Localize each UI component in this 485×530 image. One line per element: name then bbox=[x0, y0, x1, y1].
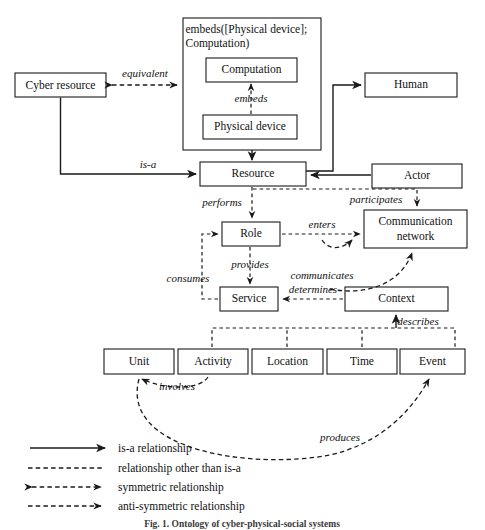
node-resource-label: Resource bbox=[232, 167, 275, 179]
node-service[interactable]: Service bbox=[220, 287, 278, 311]
edge-produces-label: produces bbox=[319, 431, 360, 443]
node-computation[interactable]: Computation bbox=[206, 58, 297, 82]
embeds-group-title-line2: Computation) bbox=[186, 37, 250, 50]
legend-item-3-label: anti-symmetric relationship bbox=[118, 500, 245, 513]
node-resource[interactable]: Resource bbox=[200, 162, 306, 186]
node-event-label: Event bbox=[419, 355, 447, 367]
node-cyber-resource-label: Cyber resource bbox=[26, 79, 96, 92]
edge-involves-label: involves bbox=[159, 380, 195, 392]
legend-item-0-label: is-a relationship bbox=[118, 442, 192, 455]
figure-caption: Fig. 1. Ontology of cyber-physical-socia… bbox=[144, 519, 340, 529]
node-communication-network-label-line1: Communication bbox=[378, 215, 452, 227]
legend-item-1-label: relationship other than is-a bbox=[118, 462, 241, 475]
edge-enters-label: enters bbox=[309, 218, 336, 230]
node-unit[interactable]: Unit bbox=[104, 349, 174, 374]
edge-consumes-label: consumes bbox=[167, 272, 210, 284]
node-role[interactable]: Role bbox=[222, 222, 280, 246]
node-service-label: Service bbox=[232, 292, 266, 304]
edge-provides-label: provides bbox=[230, 258, 268, 270]
legend: is-a relationship relationship other tha… bbox=[28, 442, 245, 513]
edge-describes-label: describes bbox=[397, 315, 439, 327]
edge-embeds-label: embeds bbox=[235, 92, 268, 104]
node-actor[interactable]: Actor bbox=[372, 164, 462, 188]
node-human[interactable]: Human bbox=[365, 73, 457, 97]
edge-describes-bus bbox=[212, 328, 455, 347]
figure-container: embeds([Physical device]; Computation) C… bbox=[0, 0, 485, 530]
node-location-label: Location bbox=[267, 355, 308, 367]
edge-performs-label: performs bbox=[201, 196, 242, 208]
node-activity[interactable]: Activity bbox=[178, 349, 248, 374]
edge-human-is-a bbox=[306, 85, 361, 171]
node-context-label: Context bbox=[378, 292, 415, 304]
edge-is-a-cyber-resource bbox=[61, 98, 197, 175]
edge-equivalent-label: equivalent bbox=[122, 67, 169, 79]
node-computation-label: Computation bbox=[221, 63, 281, 76]
edge-consumes bbox=[202, 234, 218, 299]
node-activity-label: Activity bbox=[194, 355, 232, 368]
node-event[interactable]: Event bbox=[400, 349, 465, 374]
node-actor-label: Actor bbox=[404, 169, 430, 181]
node-physical-device[interactable]: Physical device bbox=[203, 115, 297, 139]
node-human-label: Human bbox=[394, 78, 428, 90]
node-unit-label: Unit bbox=[129, 355, 150, 367]
node-role-label: Role bbox=[240, 227, 262, 239]
edge-determines-label: determines bbox=[289, 283, 337, 295]
ontology-diagram: embeds([Physical device]; Computation) C… bbox=[0, 0, 485, 530]
node-physical-device-label: Physical device bbox=[214, 120, 286, 133]
node-communication-network-label-line2: network bbox=[397, 230, 435, 242]
edge-communicates-upper bbox=[322, 240, 352, 248]
node-context[interactable]: Context bbox=[345, 287, 448, 311]
edge-participates-label: participates bbox=[349, 193, 403, 205]
edge-is-a-label: is-a bbox=[140, 158, 157, 170]
node-time-label: Time bbox=[350, 355, 374, 367]
legend-item-2-label: symmetric relationship bbox=[118, 481, 224, 494]
node-cyber-resource[interactable]: Cyber resource bbox=[15, 73, 106, 97]
node-time[interactable]: Time bbox=[327, 349, 397, 374]
embeds-group-title-line1: embeds([Physical device]; bbox=[186, 23, 308, 36]
node-communication-network[interactable]: Communication network bbox=[364, 210, 467, 248]
node-location[interactable]: Location bbox=[252, 349, 323, 374]
edge-communicates-label: communicates bbox=[291, 269, 354, 281]
